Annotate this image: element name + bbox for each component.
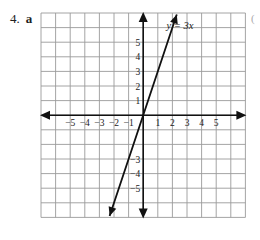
- y-tick-label: 5: [135, 38, 140, 48]
- x-tick-label: 5: [214, 118, 219, 128]
- x-tick-label: −4: [80, 118, 90, 128]
- y-tick-label: −5: [130, 184, 140, 194]
- y-tick-label: 4: [135, 52, 140, 62]
- line-arrow-down-icon: [109, 206, 117, 216]
- tick-labels: −5−4−3−2−11234554321−3−4−5y = 3x: [65, 20, 219, 194]
- arrow-up-icon: [139, 12, 148, 22]
- equation-label: y = 3x: [166, 20, 194, 31]
- y-tick-label: 3: [135, 67, 140, 77]
- y-tick-label: 1: [135, 96, 140, 106]
- arrow-right-icon: [236, 111, 246, 120]
- x-tick-label: 3: [185, 118, 190, 128]
- x-tick-label: −3: [94, 118, 104, 128]
- coordinate-plane: −5−4−3−2−11234554321−3−4−5y = 3x: [0, 0, 260, 240]
- x-tick-label: −1: [124, 118, 134, 128]
- x-tick-label: −2: [109, 118, 119, 128]
- arrow-down-icon: [139, 208, 148, 218]
- x-tick-label: 2: [170, 118, 175, 128]
- x-tick-label: 4: [199, 118, 204, 128]
- y-tick-label: −3: [130, 155, 140, 165]
- arrow-left-icon: [40, 111, 50, 120]
- y-tick-label: −4: [130, 169, 140, 179]
- x-tick-label: −5: [65, 118, 75, 128]
- y-tick-label: 2: [135, 82, 140, 92]
- x-tick-label: 1: [155, 118, 160, 128]
